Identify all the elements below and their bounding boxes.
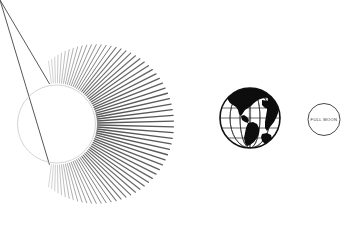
moon: FULL MOON xyxy=(308,104,340,136)
background xyxy=(0,0,354,241)
astronomy-diagram: Sun, Earth and Full Moon diagram xyxy=(0,0,354,241)
moon-label: FULL MOON xyxy=(311,117,338,122)
earth xyxy=(220,88,280,148)
diagram-canvas: Sun, Earth and Full Moon diagram xyxy=(0,0,354,241)
